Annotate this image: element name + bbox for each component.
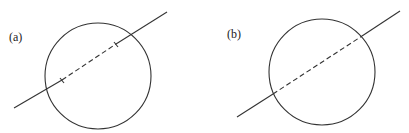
panel-a-diagram <box>0 0 204 133</box>
line-dashed-inside <box>273 36 362 94</box>
panel-b-diagram <box>205 0 409 133</box>
panel-b: (b) <box>205 0 409 133</box>
line-solid-lower <box>237 94 273 117</box>
panel-a: (a) <box>0 0 204 133</box>
circle <box>45 23 151 129</box>
line-solid-upper <box>116 12 167 44</box>
line-solid-upper <box>362 11 400 36</box>
line-solid-lower <box>14 80 62 108</box>
circle <box>269 19 375 125</box>
line-dashed-inside <box>62 44 116 80</box>
